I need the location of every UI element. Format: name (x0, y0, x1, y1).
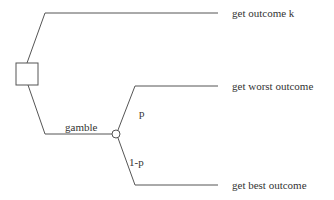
decision-tree-lines (0, 0, 334, 200)
chance-node-circle (112, 130, 120, 138)
probability-1-p-label: 1-p (129, 156, 144, 168)
gamble-label: gamble (65, 121, 97, 133)
sure-thing-branch (27, 13, 218, 63)
decision-node-square (16, 63, 38, 85)
worst-outcome-branch (118, 86, 218, 130)
best-outcome-label: get best outcome (232, 179, 307, 191)
worst-outcome-label: get worst outcome (232, 80, 313, 92)
outcome-k-label: get outcome k (232, 7, 294, 19)
probability-p-label: p (139, 107, 145, 119)
